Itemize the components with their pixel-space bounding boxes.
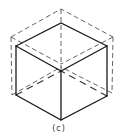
solid-cube [16, 23, 107, 120]
figure-caption: (c) [0, 124, 118, 133]
cube-drawing [0, 0, 118, 139]
cube-diagram: (c) [0, 0, 118, 139]
